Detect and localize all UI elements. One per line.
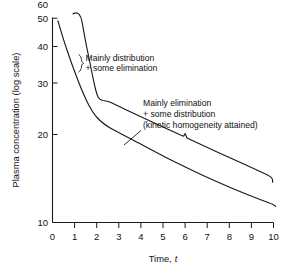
annotation-distribution-phase: Mainly distribution + some elimination [79,53,158,74]
distribution-annotation-line-1: Mainly distribution [86,53,155,63]
y-tick-label-10: 10 [37,217,48,228]
x-tick-label-7: 7 [205,231,210,242]
x-tick-label-8: 8 [227,231,232,242]
elimination-annotation-line-1: Mainly elimination [143,98,212,108]
y-tick-label-60: 60 [37,0,48,10]
y-tick-label-30: 30 [37,78,48,89]
x-tick-label-9: 9 [249,231,254,242]
x-axis-title-text: Time, [149,254,172,264]
x-tick-label-1: 1 [72,231,77,242]
x-tick-label-2: 2 [94,231,99,242]
chart-svg: 10 20 30 40 50 60 0 1 2 3 4 5 6 7 8 9 10… [0,0,293,277]
x-axis-title-var: t [175,254,178,264]
x-tick-label-3: 3 [116,231,121,242]
x-tick-label-5: 5 [160,231,165,242]
elimination-annotation-line-3: (kinetic homogeneity attained) [143,120,258,130]
y-tick-label-40: 40 [37,41,48,52]
y-tick-label-20: 20 [37,129,48,140]
distribution-annotation-line-2: + some elimination [86,63,158,73]
x-tick-label-6: 6 [182,231,187,242]
x-tick-label-0: 0 [50,231,55,242]
y-tick-label-50: 50 [37,13,48,24]
elimination-annotation-line-2: + some distribution [143,109,216,119]
y-axis-title: Plasma concentration (log scale) [11,53,21,188]
plasma-concentration-chart: 10 20 30 40 50 60 0 1 2 3 4 5 6 7 8 9 10… [0,0,293,277]
x-tick-label-4: 4 [138,231,143,242]
x-tick-label-10: 10 [268,231,279,242]
